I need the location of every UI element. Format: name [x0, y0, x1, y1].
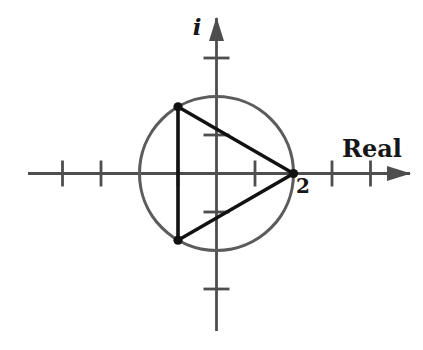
axes-layer: [28, 17, 411, 331]
right-arrowhead-icon: [387, 166, 411, 181]
vertex-dot: [173, 102, 182, 111]
complex-plane-figure: i Real 2: [0, 0, 423, 350]
imaginary-axis-label: i: [193, 13, 202, 40]
point-2-label: 2: [296, 174, 310, 198]
figure-canvas: i Real 2: [0, 0, 423, 350]
real-axis-label: Real: [342, 134, 402, 163]
vertex-dot: [173, 236, 182, 245]
up-arrowhead-icon: [209, 17, 224, 41]
